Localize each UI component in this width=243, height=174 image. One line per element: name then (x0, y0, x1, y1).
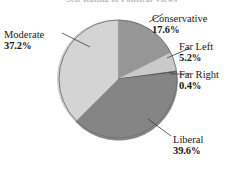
pie-label-conservative-value: 17.6% (152, 24, 207, 36)
pie-label-conservative: Conservative 17.6% (152, 13, 207, 36)
pie-label-far-right-value: 0.4% (179, 80, 219, 92)
pie-label-conservative-name: Conservative (152, 13, 207, 24)
pie-label-far-right: Far Right 0.4% (179, 69, 219, 92)
pie-label-far-left: Far Left 5.2% (179, 41, 213, 64)
pie-label-liberal-value: 39.6% (173, 145, 203, 157)
pie-label-liberal-name: Liberal (173, 134, 203, 145)
pie-label-far-right-name: Far Right (179, 69, 219, 80)
pie-label-moderate-value: 37.2% (4, 40, 44, 52)
pie-label-far-left-value: 5.2% (179, 52, 213, 64)
pie-chart-figure: Self-Rating of Political Views Conservat… (0, 0, 243, 174)
pie-label-liberal: Liberal 39.6% (173, 134, 203, 157)
pie-label-moderate: Moderate 37.2% (4, 29, 44, 52)
pie-label-far-left-name: Far Left (179, 41, 213, 52)
pie-label-moderate-name: Moderate (4, 29, 44, 40)
